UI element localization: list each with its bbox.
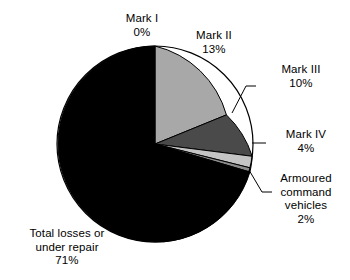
slice-label-mark-i: Mark I 0% (104, 12, 180, 39)
slice-label-mark-iv: Mark IV 4% (268, 128, 344, 155)
pie-slices (58, 46, 252, 242)
slice-label-total-line2: under repair (4, 241, 130, 255)
slice-label-mark-ii: Mark II 13% (176, 29, 252, 56)
slice-label-mark-i-name: Mark I (104, 12, 180, 26)
slice-label-mark-iii: Mark III 10% (258, 63, 344, 90)
slice-label-mark-iv-name: Mark IV (268, 128, 344, 142)
slice-label-acv-percent: 2% (266, 213, 346, 227)
slice-label-mark-iv-percent: 4% (268, 142, 344, 156)
slice-label-acv-line1: Armoured (266, 172, 346, 186)
slice-label-mark-iii-name: Mark III (258, 63, 344, 77)
leader-line-mark-iii (232, 86, 256, 113)
slice-label-mark-i-percent: 0% (104, 26, 180, 40)
slice-label-mark-ii-name: Mark II (176, 29, 252, 43)
slice-label-total-losses: Total losses or under repair 71% (4, 227, 130, 268)
pie-chart-figure: Mark I 0% Mark II 13% Mark III 10% Mark … (0, 0, 350, 280)
slice-label-armoured-command-vehicles: Armoured command vehicles 2% (266, 172, 346, 226)
slice-label-acv-line3: vehicles (266, 199, 346, 213)
slice-label-mark-iii-percent: 10% (258, 77, 344, 91)
slice-label-mark-ii-percent: 13% (176, 43, 252, 57)
slice-label-total-line1: Total losses or (4, 227, 130, 241)
slice-label-acv-line2: command (266, 186, 346, 200)
slice-label-total-percent: 71% (4, 254, 130, 268)
